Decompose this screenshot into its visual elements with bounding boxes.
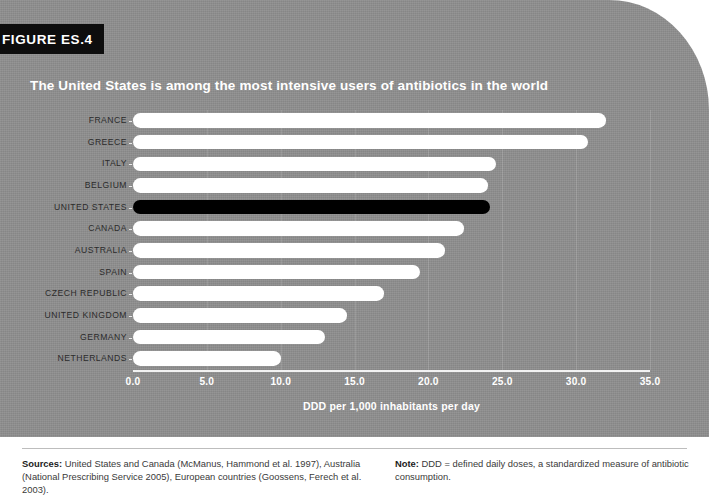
x-axis-title: DDD per 1,000 inhabitants per day [133, 400, 650, 412]
bar [133, 135, 588, 150]
bar-row [133, 262, 650, 284]
bar [133, 330, 325, 345]
y-axis-tick [129, 338, 132, 339]
x-axis-tick-labels: 0.05.010.015.020.025.030.035.0 [0, 376, 709, 392]
note-text: DDD = defined daily doses, a standardize… [395, 458, 689, 482]
x-axis-line [133, 370, 650, 372]
bar-row [133, 132, 650, 154]
bar-rows [133, 110, 650, 370]
bar [133, 178, 488, 193]
bar [133, 286, 384, 301]
y-axis-tick [129, 294, 132, 295]
bar-row [133, 197, 650, 219]
bar-row [133, 110, 650, 132]
y-axis-tick [129, 359, 132, 360]
bar-row [133, 305, 650, 327]
sources-text: United States and Canada (McManus, Hammo… [22, 458, 361, 495]
y-axis-tick [129, 273, 132, 274]
y-axis-tick [129, 208, 132, 209]
sources-block: Sources: United States and Canada (McMan… [22, 457, 372, 497]
figure-number-tab: FIGURE ES.4 [0, 24, 104, 54]
bar-row [133, 240, 650, 262]
y-axis-tick [129, 186, 132, 187]
x-axis-tick-label: 10.0 [270, 376, 291, 387]
bar [133, 113, 606, 128]
note-label: Note: [395, 458, 419, 469]
bar-row [133, 283, 650, 305]
bar-row [133, 175, 650, 197]
x-axis-tick-label: 15.0 [344, 376, 365, 387]
y-axis-tick [129, 316, 132, 317]
sources-label: Sources: [22, 458, 62, 469]
x-axis-tick-label: 30.0 [566, 376, 587, 387]
y-axis-tick [129, 121, 132, 122]
bar [133, 157, 496, 172]
bar [133, 351, 281, 366]
bar-row [133, 218, 650, 240]
bar [133, 308, 347, 323]
bar [133, 200, 490, 215]
y-axis-tick [129, 251, 132, 252]
bar-row [133, 153, 650, 175]
chart-title: The United States is among the most inte… [30, 78, 548, 93]
bar [133, 243, 445, 258]
figure-footer: Sources: United States and Canada (McMan… [0, 437, 709, 503]
x-axis-tick-label: 25.0 [492, 376, 513, 387]
x-axis-tick-label: 20.0 [418, 376, 439, 387]
x-axis-tick-label: 5.0 [199, 376, 214, 387]
figure-es-4: FIGURE ES.4 The United States is among t… [0, 0, 709, 503]
bar-row [133, 348, 650, 370]
footer-divider [22, 448, 687, 449]
y-axis-tick [129, 143, 132, 144]
plot-wrap [0, 110, 709, 370]
bar [133, 221, 464, 236]
note-block: Note: DDD = defined daily doses, a stand… [395, 457, 695, 483]
plot-area [133, 110, 650, 370]
bar [133, 265, 420, 280]
x-axis-tick-label: 35.0 [640, 376, 661, 387]
bar-row [133, 327, 650, 349]
x-axis-tick-label: 0.0 [126, 376, 141, 387]
y-axis-tick [129, 164, 132, 165]
y-axis-tick [129, 229, 132, 230]
